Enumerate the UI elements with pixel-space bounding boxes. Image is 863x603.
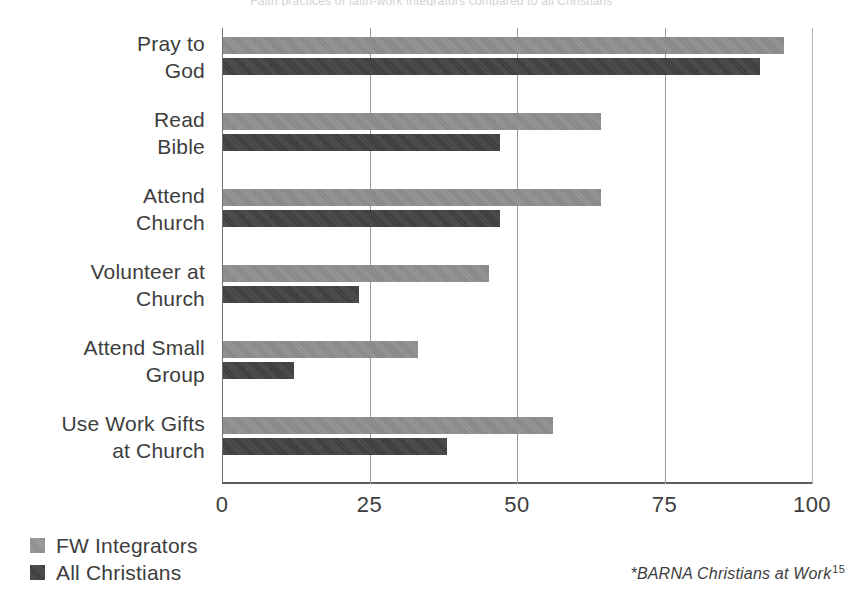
y-axis-label-line: God	[0, 57, 205, 84]
bar-all-christians	[223, 210, 500, 227]
y-axis-label: Use Work Giftsat Church	[0, 410, 205, 464]
x-tick-label-25: 25	[357, 492, 382, 518]
bar-fw-integrators	[223, 189, 601, 206]
y-axis-label: AttendChurch	[0, 182, 205, 236]
chart-page: Faith practices of faith-work integrator…	[0, 0, 863, 603]
bar-fw-integrators	[223, 417, 553, 434]
y-axis-label-line: Use Work Gifts	[0, 410, 205, 437]
x-tick-label-50: 50	[504, 492, 529, 518]
bar-fw-integrators	[223, 113, 601, 130]
legend-item[interactable]: FW Integrators	[30, 532, 360, 559]
dark-gray-swatch	[30, 565, 45, 580]
gridline-75	[665, 28, 666, 484]
gridline-100	[812, 28, 813, 484]
bar-all-christians	[223, 362, 294, 379]
bar-group	[223, 189, 812, 227]
source-footnote: *BARNA Christians at Work15	[630, 563, 845, 583]
y-axis-label-line: Church	[0, 209, 205, 236]
y-axis-label-line: Attend Small	[0, 334, 205, 361]
y-axis-label: Volunteer atChurch	[0, 258, 205, 312]
legend-label: All Christians	[56, 561, 181, 585]
bar-group	[223, 341, 812, 379]
bar-fw-integrators	[223, 341, 418, 358]
bar-group	[223, 265, 812, 303]
y-axis-label-line: Church	[0, 285, 205, 312]
plot-area	[222, 28, 812, 484]
bar-all-christians	[223, 438, 447, 455]
legend-label: FW Integrators	[56, 534, 198, 558]
y-axis-label-line: at Church	[0, 437, 205, 464]
gridline-25	[370, 28, 371, 484]
bar-group	[223, 113, 812, 151]
y-axis-label-line: Pray to	[0, 30, 205, 57]
y-axis-label-line: Group	[0, 361, 205, 388]
bar-all-christians	[223, 286, 359, 303]
bar-fw-integrators	[223, 37, 784, 54]
legend-item[interactable]: All Christians	[30, 559, 360, 586]
bar-all-christians	[223, 58, 760, 75]
chart-legend: FW IntegratorsAll Christians	[30, 532, 360, 586]
bar-fw-integrators	[223, 265, 489, 282]
x-tick-label-100: 100	[793, 492, 831, 518]
y-axis-label: Attend SmallGroup	[0, 334, 205, 388]
y-axis-label-line: Attend	[0, 182, 205, 209]
cut-off-title-text: Faith practices of faith-work integrator…	[0, 0, 863, 6]
x-tick-label-0: 0	[216, 492, 229, 518]
x-axis-tick-labels: 0255075100	[222, 492, 812, 522]
y-axis-label: ReadBible	[0, 106, 205, 160]
bar-group	[223, 37, 812, 75]
bar-all-christians	[223, 134, 500, 151]
y-axis-label: Pray toGod	[0, 30, 205, 84]
y-axis-label-line: Volunteer at	[0, 258, 205, 285]
gridline-50	[517, 28, 518, 484]
footnote-text: *BARNA Christians at Work	[630, 565, 831, 582]
y-axis-labels: Pray toGodReadBibleAttendChurchVolunteer…	[0, 28, 205, 484]
y-axis-label-line: Bible	[0, 133, 205, 160]
y-axis-label-line: Read	[0, 106, 205, 133]
bar-group	[223, 417, 812, 455]
footnote-superscript: 15	[832, 563, 845, 575]
y-axis-line	[222, 28, 223, 484]
x-tick-label-75: 75	[652, 492, 677, 518]
light-gray-swatch	[30, 538, 45, 553]
